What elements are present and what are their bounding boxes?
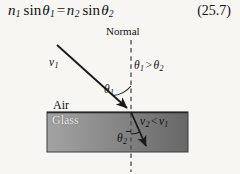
theta2-symbol: θ: [117, 132, 123, 144]
theta1-subscript: 1: [110, 88, 114, 97]
theta2-label: θ2: [117, 133, 127, 146]
normal-label: Normal: [106, 26, 140, 37]
angle-inequality-right-subscript: 2: [159, 64, 163, 73]
angle-inequality-label: θ1>θ2: [134, 60, 163, 73]
theta1-label: θ1: [104, 84, 114, 97]
refraction-figure: n1sinθ1=n2sinθ2 (25.7): [0, 0, 240, 174]
theta2-subscript: 2: [123, 137, 127, 146]
theta1-symbol: θ: [104, 83, 110, 95]
speed-inequality-operator: <: [149, 115, 159, 127]
theta1-angle-arc: [113, 86, 131, 96]
incident-speed-subscript: 1: [54, 61, 58, 70]
incident-speed-label: v1: [49, 57, 58, 70]
speed-inequality-right-subscript: 1: [164, 120, 168, 129]
angle-inequality-left: θ: [134, 59, 140, 71]
air-medium-label: Air: [53, 99, 69, 111]
speed-inequality-label: v2<v1: [140, 116, 168, 129]
glass-medium-label: Glass: [52, 114, 79, 126]
